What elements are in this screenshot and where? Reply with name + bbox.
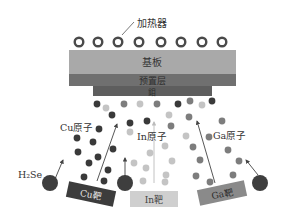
h2se-label: H₂Se xyxy=(18,169,43,180)
cu-atom-label: Cu原子 xyxy=(60,122,93,133)
in-target-label: In靶 xyxy=(145,194,163,205)
heater-leader-line xyxy=(122,22,134,35)
in-atom-label: In原子 xyxy=(137,131,167,142)
precursor-layer-label: 预置层 xyxy=(139,76,166,86)
heater-row xyxy=(75,38,227,47)
heater-icon xyxy=(218,38,227,47)
h2se-arrow-left xyxy=(55,160,63,179)
h2se-source-right xyxy=(252,175,268,191)
h2se-source-left xyxy=(42,175,58,191)
substrate-label: 基板 xyxy=(142,56,162,68)
deposition-diagram: 加热器 基板 预置层 鉬 xyxy=(0,0,286,222)
heater-label-group: 加热器 xyxy=(122,17,167,35)
heater-icon xyxy=(177,38,186,47)
heater-label: 加热器 xyxy=(137,17,167,29)
heater-icon xyxy=(135,38,144,47)
cu-target: Cu靶 xyxy=(66,181,116,207)
ga-atom-label: Ga原子 xyxy=(213,130,246,141)
h2se-source-center xyxy=(117,175,133,191)
heater-icon xyxy=(94,38,103,47)
in-target: In靶 xyxy=(130,191,178,207)
heater-icon xyxy=(198,38,207,47)
ga-target: Ga靶 xyxy=(197,180,247,206)
h2se-arrow-right xyxy=(246,160,258,175)
heater-icon xyxy=(114,38,123,47)
heater-icon xyxy=(75,38,84,47)
mo-layer-label: 鉬 xyxy=(148,87,156,97)
heater-icon xyxy=(157,38,166,47)
